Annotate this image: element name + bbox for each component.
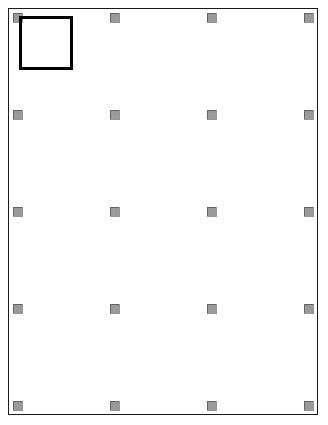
sashing-cornerstone — [13, 207, 22, 216]
sashing-cornerstone — [304, 304, 313, 313]
sashing-cornerstone — [304, 207, 313, 216]
sashing-cornerstone — [110, 304, 119, 313]
sashing-cornerstone — [304, 401, 313, 410]
sashing-cornerstone — [13, 110, 22, 119]
quilt-canvas — [0, 0, 328, 425]
sashing-cornerstone — [13, 304, 22, 313]
sashing-layer — [13, 13, 313, 410]
sashing-cornerstone — [304, 110, 313, 119]
sashing-cornerstone — [207, 207, 216, 216]
sashing-cornerstone — [110, 110, 119, 119]
sashing-cornerstone — [110, 207, 119, 216]
quilt-diagram — [0, 0, 328, 425]
sashing-field — [13, 13, 313, 410]
sashing-cornerstone — [207, 304, 216, 313]
sashing-cornerstone — [207, 110, 216, 119]
sashing-cornerstone — [207, 13, 216, 22]
sashing-cornerstone — [110, 401, 119, 410]
sashing-cornerstone — [13, 401, 22, 410]
sashing-cornerstone — [304, 13, 313, 22]
sashing-cornerstone — [110, 13, 119, 22]
sashing-cornerstone — [207, 401, 216, 410]
